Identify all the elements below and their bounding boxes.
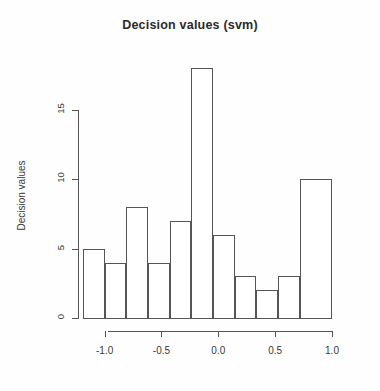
histogram-bar [235, 276, 257, 318]
x-axis-tick-label: -0.5 [141, 345, 181, 356]
histogram-bar [300, 179, 332, 318]
x-axis-tick [105, 331, 106, 337]
x-axis-tick-label: -1.0 [85, 345, 125, 356]
x-axis-tick [218, 331, 219, 337]
y-axis-tick [72, 249, 78, 250]
x-axis-line [108, 331, 332, 332]
y-axis-tick [72, 179, 78, 180]
y-axis-title: Decision values [16, 146, 27, 246]
y-axis-tick-label: 15 [55, 97, 66, 121]
histogram-bar [170, 221, 192, 318]
x-axis-tick [332, 331, 333, 337]
histogram-bar [191, 68, 213, 318]
x-axis-tick [275, 331, 276, 337]
x-axis-tick [161, 331, 162, 337]
histogram-bar [148, 263, 170, 318]
histogram-figure: Decision values (svm) Decision values 05… [0, 0, 380, 391]
y-axis-tick [72, 318, 78, 319]
y-axis-line [78, 110, 79, 319]
y-axis-tick-label: 0 [55, 305, 66, 329]
y-axis-tick [72, 110, 78, 111]
y-axis-tick-label: 5 [55, 235, 66, 259]
x-baseline [83, 318, 332, 319]
plot-area: Decision values 051015 -1.0-0.50.00.51.0 [0, 0, 380, 391]
x-axis-tick-label: 1.0 [312, 345, 352, 356]
histogram-bar [126, 207, 148, 318]
histogram-bar [213, 235, 235, 318]
histogram-bar [105, 263, 127, 318]
y-axis-tick-label: 10 [55, 166, 66, 190]
histogram-bar [278, 276, 300, 318]
histogram-bar [256, 290, 278, 318]
histogram-bar [83, 249, 105, 318]
x-axis-tick-label: 0.0 [198, 345, 238, 356]
x-axis-tick-label: 0.5 [255, 345, 295, 356]
